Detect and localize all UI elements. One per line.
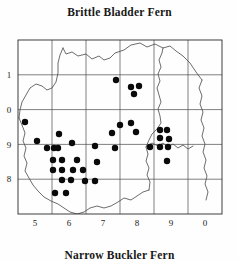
record-dot (50, 157, 56, 163)
record-dot (157, 144, 163, 150)
record-dot (164, 158, 170, 164)
map-canvas: 567890 1098 (0, 30, 239, 225)
y-axis-tick-label: 9 (7, 140, 12, 150)
record-dot (82, 178, 88, 184)
record-dot (136, 83, 142, 89)
record-dot (92, 143, 98, 149)
record-dot (80, 167, 86, 173)
record-dot (22, 119, 28, 125)
record-dot (133, 129, 139, 135)
record-dot (68, 177, 74, 183)
coastline-segment-0 (63, 43, 202, 80)
record-dot (94, 159, 100, 165)
record-dot (59, 177, 65, 183)
x-axis-tick-label: 5 (33, 218, 38, 228)
record-dot (128, 84, 134, 90)
record-dot (34, 138, 40, 144)
y-axis-tick-label: 8 (7, 174, 12, 184)
coastline-segment-2 (19, 118, 149, 214)
y-axis-labels: 1098 (7, 70, 12, 184)
coastline-segment-1 (19, 48, 63, 118)
record-dot (92, 178, 98, 184)
record-dot (157, 127, 163, 133)
record-dot (117, 122, 123, 128)
record-dot (165, 144, 171, 150)
record-dot (166, 136, 172, 142)
record-dot (56, 131, 62, 137)
page-title: Brittle Bladder Fern (0, 6, 239, 18)
y-axis-tick-label: 1 (7, 70, 12, 80)
record-dot (131, 91, 137, 97)
coastline-group (19, 43, 208, 214)
x-axis-tick-label: 9 (169, 218, 174, 228)
map-caption: Narrow Buckler Fern (0, 249, 239, 260)
distribution-map-page: Brittle Bladder Fern 567890 1098 Narrow … (0, 0, 239, 260)
x-axis-labels: 567890 (33, 218, 208, 228)
record-dot (50, 167, 56, 173)
record-dot (164, 127, 170, 133)
record-dot (109, 130, 115, 136)
record-dots-group (22, 77, 172, 196)
record-dot (74, 157, 80, 163)
x-axis-tick-label: 0 (203, 218, 208, 228)
record-dot (59, 157, 65, 163)
record-dot (63, 190, 69, 196)
record-dot (59, 167, 65, 173)
record-dot (128, 120, 134, 126)
record-dot (44, 145, 50, 151)
record-dot (69, 140, 75, 146)
record-dot (70, 167, 76, 173)
x-axis-tick-label: 7 (101, 218, 106, 228)
x-axis-tick-label: 8 (135, 218, 140, 228)
x-axis-tick-label: 6 (67, 218, 72, 228)
record-dot (113, 77, 119, 83)
record-dot (55, 145, 61, 151)
record-dot (157, 135, 163, 141)
y-axis-tick-label: 0 (7, 105, 12, 115)
record-dot (112, 145, 118, 151)
record-dot (147, 144, 153, 150)
map-svg: 567890 1098 (0, 30, 239, 235)
coastline-segment-3 (146, 48, 163, 190)
record-dot (52, 190, 58, 196)
coastline-segment-4 (199, 80, 208, 200)
